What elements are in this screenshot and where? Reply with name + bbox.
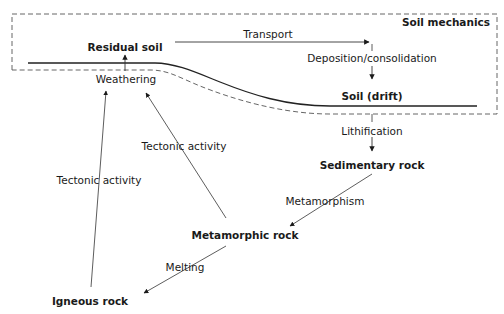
transport-label: Transport (242, 28, 292, 40)
tectonic-activity-left-label: Tectonic activity (56, 174, 142, 186)
residual-soil-node: Residual soil (87, 41, 162, 53)
soil-mechanics-label: Soil mechanics (402, 16, 490, 28)
melting-label: Melting (166, 261, 205, 273)
metamorphism-label: Metamorphism (286, 195, 365, 207)
lithification-label: Lithification (341, 125, 402, 137)
metamorphic-rock-node: Metamorphic rock (191, 229, 299, 241)
tectonic-left-arrow (91, 91, 106, 287)
deposition-label: Deposition/consolidation (307, 52, 436, 64)
soil-drift-node: Soil (drift) (341, 90, 402, 102)
sedimentary-rock-node: Sedimentary rock (320, 159, 426, 171)
weathering-label: Weathering (96, 73, 156, 85)
rock-soil-cycle-diagram: Soil mechanics Transport Deposition/cons… (0, 0, 504, 314)
tectonic-mid-arrow (146, 93, 226, 218)
tectonic-activity-mid-label: Tectonic activity (141, 140, 227, 152)
igneous-rock-node: Igneous rock (52, 295, 129, 307)
